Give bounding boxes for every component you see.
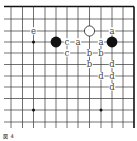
point-label: d	[109, 71, 115, 81]
point-label: a	[109, 26, 114, 36]
star-point-icon	[100, 109, 103, 112]
stones	[51, 26, 118, 47]
figure-caption: 図 4	[3, 132, 14, 139]
black-stone-icon	[107, 37, 118, 48]
point-label: b	[87, 48, 93, 58]
point-label: c	[65, 37, 70, 47]
point-label: b	[98, 48, 104, 58]
go-board: eacaacbbbdddd	[0, 0, 137, 141]
point-label: c	[65, 48, 70, 58]
point-labels: eacaacbbbdddd	[30, 26, 115, 92]
point-label: a	[98, 37, 103, 47]
point-label: d	[109, 59, 115, 69]
point-label: d	[109, 82, 115, 92]
point-label: e	[31, 26, 36, 36]
point-label: d	[98, 71, 104, 81]
star-point-icon	[32, 41, 35, 44]
white-stone-icon	[84, 26, 94, 36]
star-point-icon	[32, 109, 35, 112]
point-label: b	[87, 59, 93, 69]
point-label: a	[75, 37, 80, 47]
black-stone-icon	[51, 37, 62, 48]
